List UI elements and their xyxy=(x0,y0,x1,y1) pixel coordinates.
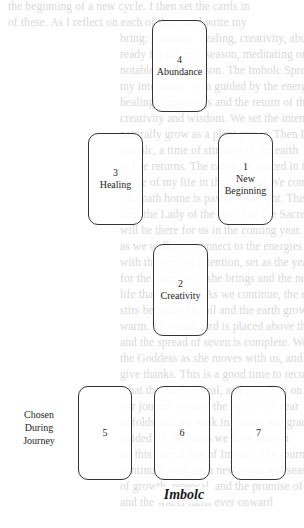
side-label-line3: Journey xyxy=(10,434,68,447)
bleed-line: the Goddess as she moves with us, and we xyxy=(120,352,304,364)
bleed-line: Imbolc, a time of stirrings in the earth xyxy=(120,144,304,156)
bleed-line: life that awakens. As we continue, the e… xyxy=(120,288,304,300)
bleed-line: warm. The third card is placed above the… xyxy=(120,320,304,332)
bleed-line: with the seed of intention, set as the y… xyxy=(120,256,304,268)
bleed-line: as we walk, we connect to the energies p… xyxy=(120,240,304,252)
card-position-4: 4 Abundance xyxy=(152,20,207,112)
bleed-line: the beginning of a new cycle. I then set… xyxy=(8,0,304,12)
card-position-5: 5 xyxy=(78,386,132,480)
card-label: Healing xyxy=(100,179,132,191)
bleed-line: as life returns. The cards are placed in… xyxy=(120,160,304,172)
bleed-line: The path home is paved with light. The B… xyxy=(120,192,304,204)
card-number: 4 xyxy=(177,54,182,66)
card-number: 5 xyxy=(103,427,108,439)
bleed-line: bring: guidance, healing, creativity, ab… xyxy=(120,32,304,44)
bleed-line: creativity and wisdom. We set the intent… xyxy=(120,112,304,124)
card-position-3: 3 Healing xyxy=(88,133,143,225)
card-label: Abundance xyxy=(157,66,203,78)
bleed-line: ready for the new season, meditating on … xyxy=(120,48,304,60)
card-number: 6 xyxy=(180,427,185,439)
chosen-during-journey-label: Chosen During Journey xyxy=(10,408,68,447)
bleed-line: give thanks. This is a good time to reco… xyxy=(120,368,304,380)
bleed-line: flame of my life in the process. We come… xyxy=(120,176,304,188)
card-position-7: 7 xyxy=(231,386,286,480)
bleed-line: and the spread of seven is complete. We … xyxy=(120,336,304,348)
bleed-line: notable, to the season. The Imbolc Sprea… xyxy=(120,64,304,76)
bleed-line: naturally grow as a plant grows. Then I … xyxy=(120,128,304,140)
bleed-line: stirs beneath the soil and the earth gro… xyxy=(120,304,304,316)
card-position-6: 6 xyxy=(154,386,210,480)
card-number: 1 xyxy=(243,161,248,173)
bleed-line: for the many gifts she brings and the ne… xyxy=(120,272,304,284)
card-number: 2 xyxy=(178,278,183,290)
bleed-line: healing, beginnings and the return of th… xyxy=(120,96,304,108)
side-label-line1: Chosen xyxy=(10,408,68,421)
side-label-line2: During xyxy=(10,421,68,434)
bleed-line: my intentions. I am guided by the energi… xyxy=(120,80,304,92)
bleed-line: then the Lady of the Well and the Sacred… xyxy=(120,208,304,220)
spread-caption: Imbolc xyxy=(154,487,214,503)
card-label-line1: New xyxy=(236,173,255,185)
card-number: 3 xyxy=(113,167,118,179)
card-position-2: 2 Creativity xyxy=(153,244,208,336)
card-label-line2: Beginning xyxy=(225,185,267,197)
card-number: 7 xyxy=(256,427,261,439)
bleed-line: will be there for us in the coming year.… xyxy=(120,224,304,236)
card-label: Creativity xyxy=(161,290,201,302)
card-position-1: 1 New Beginning xyxy=(218,133,273,225)
